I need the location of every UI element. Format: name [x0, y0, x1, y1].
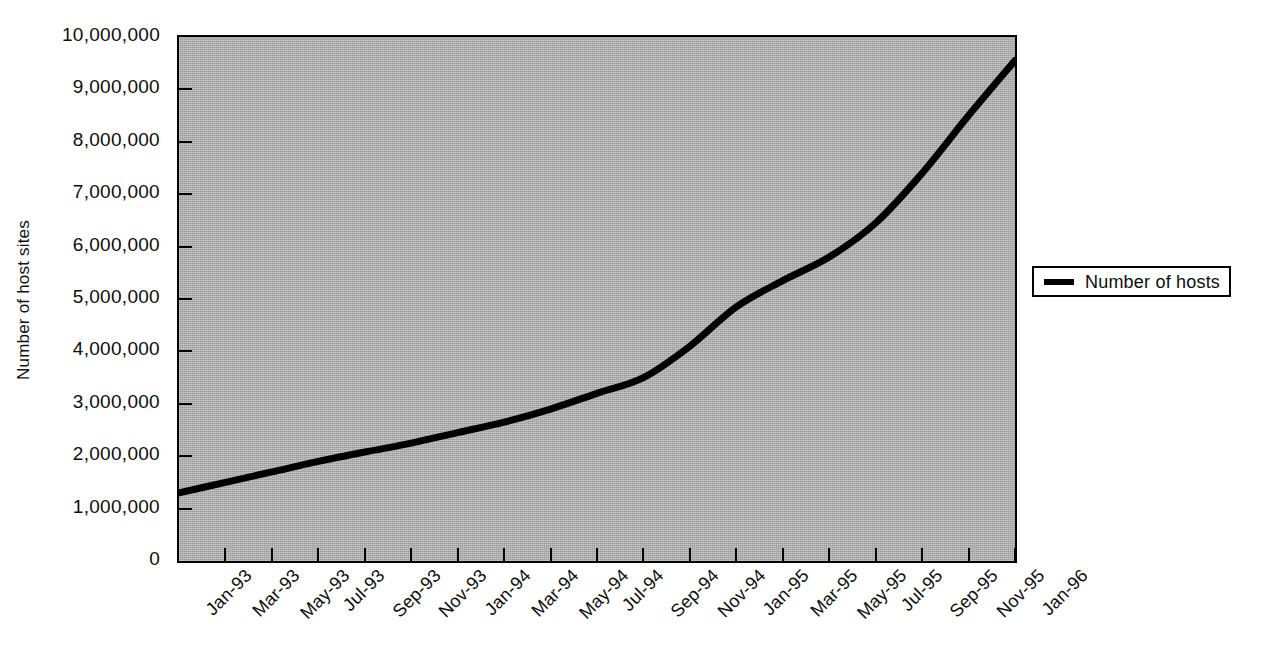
y-axis-tick-label: 7,000,000 — [8, 182, 160, 201]
x-axis-tick-label: Jan-93 — [202, 566, 255, 619]
y-axis-tick-mark — [179, 455, 192, 457]
y-axis-tick-label: 2,000,000 — [8, 444, 160, 463]
x-axis-tick-label: Jan-94 — [481, 566, 534, 619]
x-axis-tick-label: Sep-94 — [668, 566, 723, 621]
x-axis-tick-label: Jan-95 — [760, 566, 813, 619]
plot-area — [177, 35, 1017, 563]
y-axis-tick-mark — [179, 508, 192, 510]
legend-line-swatch-icon — [1044, 279, 1074, 285]
legend-entry-label: Number of hosts — [1085, 273, 1220, 291]
y-axis-tick-label: 8,000,000 — [8, 130, 160, 149]
y-axis-tick-labels: 01,000,0002,000,0003,000,0004,000,0005,0… — [0, 0, 160, 657]
x-axis-tick-label: May-95 — [854, 566, 910, 622]
y-axis-tick-label: 10,000,000 — [8, 25, 160, 44]
x-axis-tick-label: Sep-95 — [946, 566, 1001, 621]
x-axis-tick-label: Nov-94 — [714, 566, 769, 621]
y-axis-tick-label: 5,000,000 — [8, 287, 160, 306]
x-axis-tick-label: Mar-94 — [528, 566, 582, 620]
chart-figure: Number of host sites 01,000,0002,000,000… — [0, 0, 1267, 657]
x-axis-tick-label: Nov-93 — [436, 566, 491, 621]
y-axis-tick-mark — [179, 246, 192, 248]
x-axis-tick-label: Nov-95 — [993, 566, 1048, 621]
y-axis-tick-label: 3,000,000 — [8, 392, 160, 411]
y-axis-tick-label: 6,000,000 — [8, 235, 160, 254]
x-axis-tick-labels: Jan-93Mar-93May-93Jul-93Sep-93Nov-93Jan-… — [0, 560, 1267, 657]
series-line-number-of-hosts — [179, 37, 1015, 561]
y-axis-tick-label: 9,000,000 — [8, 77, 160, 96]
y-axis-tick-mark — [179, 298, 192, 300]
legend: Number of hosts — [1032, 266, 1231, 297]
y-axis-tick-mark — [179, 88, 192, 90]
x-axis-tick-label: Jan-96 — [1038, 566, 1091, 619]
y-axis-tick-label: 4,000,000 — [8, 339, 160, 358]
y-axis-tick-label: 1,000,000 — [8, 497, 160, 516]
x-axis-tick-label: Mar-95 — [807, 566, 861, 620]
y-axis-tick-mark — [179, 403, 192, 405]
y-axis-tick-mark — [179, 193, 192, 195]
y-axis-tick-mark — [179, 350, 192, 352]
x-axis-tick-label: Sep-93 — [389, 566, 444, 621]
x-axis-tick-label: Mar-93 — [249, 566, 303, 620]
y-axis-tick-mark — [179, 141, 192, 143]
